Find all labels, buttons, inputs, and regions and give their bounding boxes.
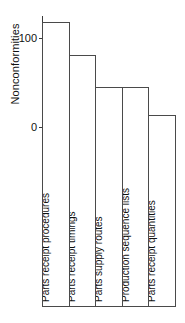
y-tick-label: 100 [19,32,37,44]
plot-area: 1000 [42,16,176,128]
category-label: Parts receipt quantities [148,127,157,302]
bar [148,115,176,128]
category-label: Parts supply routes [95,127,104,302]
bar [69,55,97,128]
category-label-wrap: Production sequence lists [123,127,149,306]
category-label-box: Production sequence lists [122,127,150,307]
category-label-wrap: Parts receipt quantities [149,127,175,306]
category-label-wrap: Parts receipt procedures [43,127,69,306]
bar-chart: Nonconformities 1000 Parts receipt proce… [0,0,185,323]
category-label: Parts receipt procedures [42,127,51,302]
category-label-box: Parts supply routes [95,127,123,307]
y-tick-label: 0 [31,121,37,133]
category-label-box: Parts receipt timings [69,127,97,307]
bar [42,22,70,128]
bar [95,87,123,128]
category-label-box: Parts receipt quantities [148,127,176,307]
category-label: Production sequence lists [122,127,131,302]
category-label-wrap: Parts receipt timings [70,127,96,306]
bar-series [42,16,176,128]
category-label: Parts receipt timings [69,127,78,302]
category-label-wrap: Parts supply routes [96,127,122,306]
category-label-box: Parts receipt procedures [42,127,70,307]
category-label-boxes: Parts receipt proceduresParts receipt ti… [42,127,176,307]
y-axis-title: Nonconformities [0,0,30,128]
bar [122,87,150,128]
